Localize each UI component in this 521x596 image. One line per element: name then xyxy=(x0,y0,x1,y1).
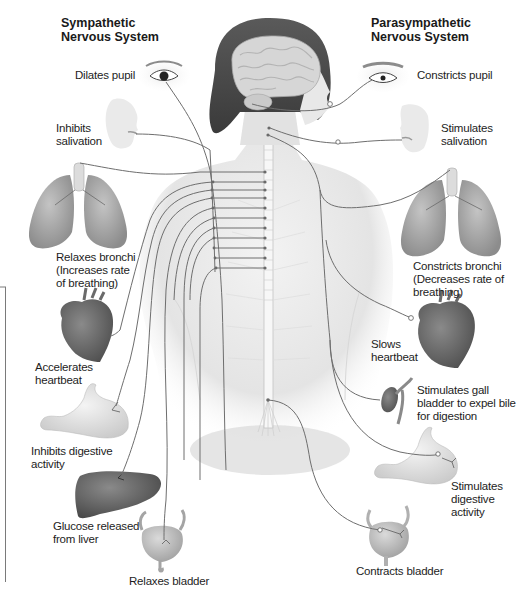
right-mouth xyxy=(400,104,429,152)
label-constricts-pupil: Constricts pupil xyxy=(417,69,492,82)
label-contracts-bladder: Contracts bladder xyxy=(356,565,443,578)
label-constricts-bronchi: Constricts bronchi (Decreases rate of br… xyxy=(413,260,504,299)
head xyxy=(209,18,330,145)
left-eye xyxy=(138,59,190,91)
autonomic-nervous-system-diagram: Sympathetic Nervous System Parasympathet… xyxy=(0,0,521,596)
label-relaxes-bronchi: Relaxes bronchi (Increases rate of breat… xyxy=(56,251,135,290)
label-stimulates-gall-bladder: Stimulates gall bladder to expel bile fo… xyxy=(417,384,516,423)
sympathetic-title: Sympathetic Nervous System xyxy=(61,17,159,44)
right-eye xyxy=(357,60,409,92)
label-accelerates-heartbeat: Accelerates heartbeat xyxy=(35,361,93,387)
right-bladder xyxy=(368,506,409,566)
left-lungs xyxy=(29,163,127,248)
right-heart xyxy=(418,290,475,368)
right-lungs xyxy=(401,168,501,256)
label-slows-heartbeat: Slows heartbeat xyxy=(371,338,418,364)
label-stimulates-digestive: Stimulates digestive activity xyxy=(451,480,503,519)
gall-bladder xyxy=(381,378,412,424)
label-dilates-pupil: Dilates pupil xyxy=(75,69,135,82)
label-inhibits-digestive: Inhibits digestive activity xyxy=(31,445,112,471)
left-bracket xyxy=(0,287,6,582)
liver xyxy=(75,471,161,518)
parasympathetic-title: Parasympathetic Nervous System xyxy=(371,17,471,44)
left-stomach xyxy=(41,384,129,438)
left-bladder xyxy=(140,510,184,571)
label-relaxes-bladder: Relaxes bladder xyxy=(129,575,209,588)
left-heart xyxy=(61,288,113,362)
label-glucose-released: Glucose released from liver xyxy=(53,520,139,546)
label-stimulates-salivation: Stimulates salivation xyxy=(441,122,493,148)
right-stomach xyxy=(375,427,458,484)
label-inhibits-salivation: Inhibits salivation xyxy=(56,122,102,148)
left-mouth xyxy=(106,99,138,149)
